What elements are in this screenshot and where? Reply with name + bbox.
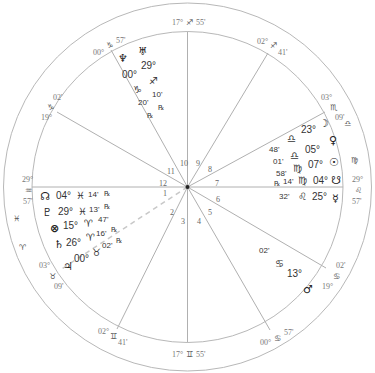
house-number-11: 11: [167, 167, 175, 176]
planet-saturn-retro: ℞: [111, 226, 117, 234]
planet-uranus-min: 10': [152, 90, 163, 99]
planet-saturn-sign: ♈: [86, 232, 95, 243]
planet-sun-sign: ♍: [293, 163, 302, 174]
planet-jupiter-deg: 00°: [74, 253, 89, 264]
cusp-11-deg: 19°: [41, 113, 52, 122]
cusp-3-deg: 02°: [98, 327, 109, 336]
planet-neptune-deg: 00°: [122, 69, 137, 80]
house-number-4: 4: [197, 217, 201, 226]
planet-pluto-deg: 29°: [58, 206, 73, 217]
planet-south-node-deg: 04°: [313, 175, 328, 186]
planet-venus-min: 01': [273, 157, 284, 166]
cusp-6-deg: 19°: [322, 282, 333, 291]
planet-mars-sign: ♋: [275, 258, 284, 269]
house-number-12: 12: [159, 179, 167, 188]
cusp-2-min: 09': [54, 282, 64, 291]
planet-sun-glyph: ☉: [329, 156, 339, 169]
cusp-3-min: 41': [118, 338, 128, 347]
planet-uranus-glyph: ♅: [138, 45, 148, 58]
cusp-10-sign: ♐: [186, 18, 193, 27]
planet-mars-glyph: ♂: [303, 283, 313, 296]
cusp-6-min: 02': [336, 261, 346, 270]
planet-moon-deg: 23°: [301, 124, 316, 135]
cusp-1-sign: ♒: [25, 186, 32, 195]
planet-moon-sign: ♎: [287, 133, 296, 144]
cusp-12-min: 57': [116, 36, 126, 45]
cusp-6-sign: ♋: [333, 272, 340, 281]
planet-saturn-glyph: ♄: [54, 238, 64, 251]
planet-north-node-deg: 04°: [56, 190, 71, 201]
cusp-8-deg: 03°: [321, 93, 332, 102]
cusp-1-deg: 29°: [22, 175, 33, 184]
planet-mars-min: 02': [259, 246, 270, 255]
cusp-12-sign: ♑: [106, 41, 113, 50]
cusp-10-min: 55': [196, 18, 206, 27]
house-number-3: 3: [181, 217, 185, 226]
house-number-10: 10: [180, 159, 188, 168]
cusp-2-deg: 03°: [39, 261, 50, 270]
cusp-line-3: [117, 187, 188, 329]
intercepted-sign-pisces: ♓: [13, 214, 20, 223]
planet-mercury-min: 32': [279, 192, 290, 201]
cusp-3-sign: ♊: [110, 332, 117, 341]
planet-south-node-glyph: ☋: [331, 174, 341, 187]
planet-pluto-glyph: ♇: [42, 206, 52, 219]
planet-fortune-glyph: ⊗: [50, 222, 59, 235]
planet-pluto-sign: ♓: [78, 206, 87, 217]
cusp-7-sign: ♌: [355, 186, 362, 195]
planet-fortune-sign: ♈: [84, 218, 93, 229]
planet-north-node-retro: ℞: [104, 190, 110, 198]
planet-fortune-min: 47': [98, 215, 109, 224]
house-number-8: 8: [208, 165, 212, 174]
cusp-12-deg: 00°: [93, 48, 104, 57]
planet-jupiter-sign: ♉: [92, 247, 101, 258]
cusp-8-sign: ♏: [330, 103, 338, 112]
planet-north-node-min: 14': [88, 190, 99, 199]
planet-sun-deg: 07°: [308, 159, 323, 170]
planet-neptune-sign: ♑: [133, 84, 142, 95]
cusp-5-sign: ♋: [274, 334, 281, 343]
cusp-5-deg: 00°: [260, 338, 271, 347]
intercepted-sign-libra: ♎: [344, 119, 351, 128]
natal-chart-wheel: 1 2 3 4 5 6 7 8 9 10 11 12 17° ♐ 55' 02'…: [0, 0, 375, 373]
planet-jupiter-retro: ℞: [116, 237, 122, 245]
planet-south-node-sign: ♍: [298, 175, 307, 186]
cusp-9-deg: 02°: [257, 37, 268, 46]
cusp-5-min: 57': [284, 328, 294, 337]
cusp-line-5: [188, 187, 271, 330]
house-number-6: 6: [216, 195, 220, 204]
planet-north-node-sign: ♓: [76, 190, 85, 201]
planet-mars-deg: 13°: [287, 268, 302, 279]
planet-neptune-min: 20': [138, 98, 149, 107]
cusp-4-min: 55': [196, 350, 206, 359]
planet-venus-sign: ♎: [290, 150, 299, 161]
cusp-9-sign: ♐: [270, 41, 277, 50]
cusp-7-deg: 29°: [352, 175, 363, 184]
planet-venus-deg: 05°: [305, 144, 320, 155]
house-number-9: 9: [196, 159, 200, 168]
planet-fortune-deg: 15°: [63, 220, 78, 231]
cusp-4-sign: ♊: [186, 350, 193, 359]
cusp-10-deg: 17°: [172, 18, 183, 27]
planet-south-node-retro: ℞: [274, 180, 280, 188]
planet-saturn-min: 16': [96, 229, 107, 238]
cusp-4-deg: 17°: [172, 350, 183, 359]
intercepted-sign-virgo: ♍: [351, 156, 358, 165]
planet-uranus-sign: ♐: [149, 75, 158, 86]
chart-center: [186, 185, 190, 189]
planet-venus-glyph: ♀: [329, 134, 337, 147]
planet-mercury-sign: ♌: [298, 191, 307, 202]
planet-mercury-glyph: ☿: [332, 192, 339, 205]
planet-neptune-glyph: ♆: [118, 52, 128, 65]
planet-uranus-retro: ℞: [158, 104, 164, 112]
cusp-11-sign: ♑: [47, 103, 54, 112]
intercepted-sign-aries: ♈: [19, 243, 26, 252]
planet-north-node-glyph: ☊: [40, 190, 50, 203]
planet-neptune-retro: ℞: [147, 112, 153, 120]
cusp-2-sign: ♉: [49, 272, 56, 281]
house-number-7: 7: [215, 179, 219, 188]
planet-jupiter-glyph: ♃: [63, 260, 73, 273]
planet-pluto-min: 13': [89, 205, 100, 214]
planet-moon-glyph: ☽: [319, 117, 329, 130]
house-number-1: 1: [163, 189, 167, 198]
